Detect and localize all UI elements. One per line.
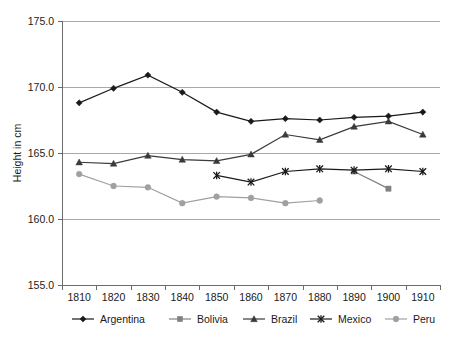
data-point-marker-diamond: [420, 109, 426, 115]
data-point-marker-diamond: [214, 109, 220, 115]
legend-label: Peru: [413, 313, 435, 325]
data-point-marker-square: [177, 316, 182, 321]
legend-item-peru[interactable]: Peru: [385, 313, 435, 325]
y-axis-tick-label: 165.0: [28, 147, 54, 159]
x-axis-tick-label: 1870: [274, 291, 298, 303]
data-point-marker-triangle: [385, 118, 392, 124]
series-peru: [76, 171, 322, 206]
data-point-marker-circle: [179, 200, 185, 206]
data-point-marker-diamond: [248, 118, 254, 124]
data-point-marker-circle: [393, 316, 399, 322]
y-axis-tick-label: 170.0: [28, 81, 54, 93]
y-axis-title: Height in cm: [11, 124, 23, 183]
data-point-marker-circle: [248, 195, 254, 201]
series-line-argentina: [79, 75, 423, 121]
data-point-marker-diamond: [110, 85, 116, 91]
data-point-marker-diamond: [282, 116, 288, 122]
chart-canvas: 175.0170.0165.0160.0155.0 18101820183018…: [0, 0, 459, 337]
y-axis-tick-label: 160.0: [28, 213, 54, 225]
x-axis-tick-labels: 1810182018301840185018601870188018901900…: [68, 291, 435, 303]
series-line-brazil: [79, 121, 423, 163]
data-point-marker-circle: [76, 171, 82, 177]
legend-item-mexico[interactable]: Mexico: [310, 313, 371, 325]
data-point-marker-circle: [111, 183, 117, 189]
y-axis-title-group: Height in cm: [11, 124, 23, 183]
data-point-marker-triangle: [282, 131, 289, 137]
data-point-marker-diamond: [76, 100, 82, 106]
x-axis-tick-label: 1830: [136, 291, 160, 303]
legend-item-argentina[interactable]: Argentina: [72, 313, 145, 325]
x-axis-tick-label: 1860: [239, 291, 263, 303]
x-axis-tick-label: 1840: [171, 291, 195, 303]
x-axis-tick-label: 1810: [68, 291, 92, 303]
series-mexico: [213, 165, 426, 186]
x-axis-tick-label: 1850: [205, 291, 229, 303]
legend-item-brazil[interactable]: Brazil: [243, 313, 297, 325]
data-point-marker-diamond: [179, 89, 185, 95]
data-point-marker-circle: [317, 198, 323, 204]
series-brazil: [76, 118, 426, 166]
series-argentina: [76, 72, 426, 124]
y-axis-tick-label: 155.0: [28, 279, 54, 291]
legend-label: Bolivia: [197, 313, 228, 325]
series-line-bolivia: [354, 171, 388, 188]
y-axis-tick-labels: 175.0170.0165.0160.0155.0: [28, 15, 54, 291]
x-axis-tick-label: 1890: [342, 291, 366, 303]
legend-item-bolivia[interactable]: Bolivia: [169, 313, 228, 325]
data-point-marker-diamond: [80, 316, 86, 322]
x-axis-tick-label: 1900: [377, 291, 401, 303]
y-axis-tick-label: 175.0: [28, 15, 54, 27]
data-point-marker-diamond: [145, 72, 151, 78]
legend-label: Argentina: [100, 313, 145, 325]
data-point-marker-diamond: [317, 117, 323, 123]
legend-group: ArgentinaBoliviaBrazilMexicoPeru: [72, 313, 435, 325]
x-axis-tick-label: 1880: [308, 291, 332, 303]
data-series-group: [76, 72, 426, 206]
x-axis-tick-label: 1910: [411, 291, 435, 303]
x-axis-tick-label: 1820: [102, 291, 126, 303]
legend-label: Mexico: [338, 313, 371, 325]
data-point-marker-circle: [282, 200, 288, 206]
legend-label: Brazil: [271, 313, 297, 325]
data-point-marker-diamond: [351, 114, 357, 120]
series-bolivia: [351, 169, 391, 191]
line-chart-figure: 175.0170.0165.0160.0155.0 18101820183018…: [0, 0, 459, 337]
data-point-marker-circle: [145, 184, 151, 190]
data-point-marker-circle: [214, 194, 220, 200]
data-point-marker-square: [386, 186, 391, 191]
